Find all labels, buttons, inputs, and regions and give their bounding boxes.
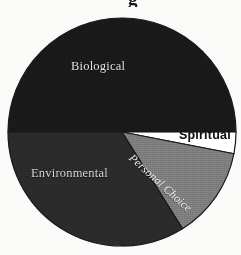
pie-slices-group	[8, 18, 236, 246]
pie-chart-figure: g Biological Spiritual Personal Choice E…	[0, 0, 241, 255]
pie-slice-biological	[8, 18, 236, 132]
pie-chart-svg	[0, 0, 241, 255]
